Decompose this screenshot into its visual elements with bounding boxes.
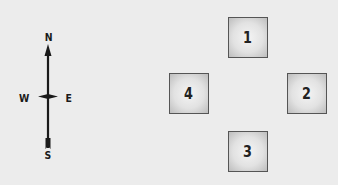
box-3-bottom: 3 bbox=[228, 131, 268, 172]
west-label: W bbox=[19, 93, 29, 104]
box-4-left: 4 bbox=[169, 73, 209, 114]
compass-rose: N S W E bbox=[0, 0, 100, 185]
south-label: S bbox=[45, 150, 52, 161]
box-label: 2 bbox=[303, 84, 312, 103]
box-2-right: 2 bbox=[287, 73, 327, 114]
east-label: E bbox=[66, 93, 72, 104]
box-label: 4 bbox=[185, 84, 194, 103]
box-1-top: 1 bbox=[228, 17, 268, 58]
north-label: N bbox=[45, 32, 53, 43]
box-label: 3 bbox=[244, 142, 253, 161]
box-label: 1 bbox=[244, 28, 253, 47]
